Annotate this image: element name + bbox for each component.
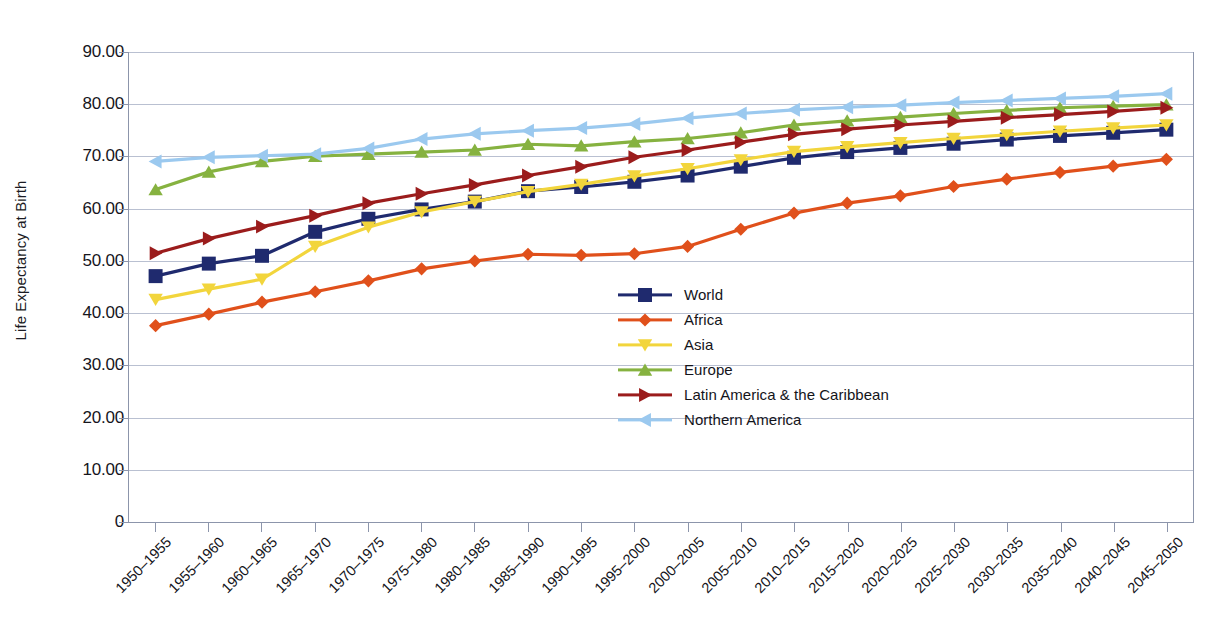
data-point-marker [575, 160, 588, 174]
legend-item-asia[interactable]: Asia [618, 333, 889, 356]
data-point-marker [149, 319, 162, 332]
legend-swatch-icon [618, 336, 672, 354]
x-tick-mark [901, 522, 902, 532]
data-point-marker [362, 196, 375, 210]
x-tick-label: 1975–1980 [378, 534, 440, 596]
legend-label: Latin America & the Caribbean [684, 386, 889, 403]
data-point-marker [521, 248, 534, 261]
data-point-marker [468, 127, 481, 141]
data-point-marker [308, 225, 322, 239]
series-line [156, 125, 1167, 300]
data-point-marker [627, 117, 640, 131]
data-point-marker [639, 388, 652, 402]
data-point-marker [947, 96, 960, 110]
legend-item-world[interactable]: World [618, 283, 889, 306]
data-point-marker [628, 150, 641, 164]
legend-marker-icon [635, 385, 655, 405]
legend-label: Africa [684, 311, 723, 328]
data-point-marker [362, 274, 375, 287]
x-tick-mark [741, 522, 742, 532]
x-tick-label: 1985–1990 [485, 534, 547, 596]
legend-item-africa[interactable]: Africa [618, 308, 889, 331]
data-point-marker [149, 154, 162, 168]
x-tick-label: 1965–1970 [272, 534, 334, 596]
legend-label: Asia [684, 336, 713, 353]
y-tick-label: 30.00 [32, 355, 124, 375]
y-tick-label: 10.00 [32, 460, 124, 480]
data-point-marker [255, 249, 269, 263]
x-tick-mark [634, 522, 635, 532]
x-tick-mark [368, 522, 369, 532]
data-point-marker [894, 189, 907, 202]
legend-swatch-icon [618, 386, 672, 404]
legend-marker-icon [635, 285, 655, 305]
legend-label: World [684, 286, 723, 303]
x-tick-label: 2025–2030 [911, 534, 973, 596]
x-tick-label: 2030–2035 [965, 534, 1027, 596]
data-point-marker [841, 197, 854, 210]
legend-item-europe[interactable]: Europe [618, 358, 889, 381]
data-point-marker [203, 232, 216, 246]
series-world [149, 123, 1174, 283]
x-tick-mark [261, 522, 262, 532]
y-tick-label: 90.00 [32, 42, 124, 62]
x-tick-mark [155, 522, 156, 532]
data-point-marker [255, 296, 268, 309]
data-point-marker [1107, 160, 1120, 173]
chart-legend: WorldAfricaAsiaEuropeLatin America & the… [618, 283, 889, 431]
y-tick-label: 20.00 [32, 408, 124, 428]
data-point-marker [638, 413, 651, 427]
data-point-marker [1053, 166, 1066, 179]
series-line [156, 108, 1167, 253]
x-tick-label: 2040–2045 [1071, 534, 1133, 596]
data-point-marker [840, 100, 853, 114]
data-point-marker [202, 150, 215, 164]
legend-marker-icon [635, 335, 655, 355]
x-tick-mark [1061, 522, 1062, 532]
series-line [156, 94, 1167, 162]
y-axis-title-label: Life Expectancy at Birth [13, 180, 30, 340]
series-asia [148, 119, 1173, 306]
series-europe [148, 98, 1173, 195]
data-point-marker [521, 124, 534, 138]
legend-label: Europe [684, 361, 733, 378]
data-point-marker [574, 121, 587, 135]
x-tick-mark [1007, 522, 1008, 532]
legend-swatch-icon [618, 286, 672, 304]
data-point-marker [682, 143, 695, 157]
x-tick-mark [315, 522, 316, 532]
data-point-marker [150, 246, 163, 260]
x-tick-label: 2020–2025 [858, 534, 920, 596]
data-point-marker [256, 220, 269, 234]
x-tick-label: 2035–2040 [1018, 534, 1080, 596]
x-tick-label: 1960–1965 [219, 534, 281, 596]
legend-item-northern-america[interactable]: Northern America [618, 408, 889, 431]
legend-item-latin-america-the-caribbean[interactable]: Latin America & the Caribbean [618, 383, 889, 406]
x-tick-label: 2010–2015 [752, 534, 814, 596]
y-tick-label: 0 [32, 512, 124, 532]
data-point-marker [628, 247, 641, 260]
x-tick-label: 2015–2020 [805, 534, 867, 596]
x-tick-mark [688, 522, 689, 532]
data-point-marker [947, 180, 960, 193]
x-tick-label: 1980–1985 [432, 534, 494, 596]
data-point-marker [1159, 87, 1172, 101]
data-point-marker [1160, 153, 1173, 166]
series-line [156, 130, 1167, 276]
x-tick-mark [848, 522, 849, 532]
x-tick-label: 1955–1960 [165, 534, 227, 596]
x-tick-label: 2005–2010 [698, 534, 760, 596]
data-point-marker [1000, 173, 1013, 186]
x-tick-mark [474, 522, 475, 532]
data-point-marker [415, 262, 428, 275]
data-point-marker [787, 103, 800, 117]
y-tick-mark [119, 156, 128, 157]
data-point-marker [415, 132, 428, 146]
x-tick-mark [421, 522, 422, 532]
x-tick-mark [794, 522, 795, 532]
data-point-marker [575, 249, 588, 262]
data-point-marker [638, 363, 652, 375]
y-tick-label: 40.00 [32, 303, 124, 323]
y-tick-label: 80.00 [32, 94, 124, 114]
data-point-marker [681, 240, 694, 253]
